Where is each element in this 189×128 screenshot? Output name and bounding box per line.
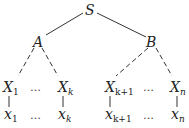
ellipsis-right-upper: … <box>143 81 154 94</box>
leaf-xn: xn <box>171 106 185 124</box>
node-x1-upper: X1 <box>2 79 19 97</box>
node-a: A <box>31 34 43 50</box>
edge-b-xk1 <box>116 48 148 76</box>
edge-a-x1 <box>18 48 34 76</box>
node-xk-upper: Xk <box>57 79 73 97</box>
leaf-xk1: xk+1 <box>105 106 132 124</box>
tree-diagram: S A B X1 … Xk Xk+1 … Xn x1 … xk xk+1 … x… <box>0 0 189 128</box>
node-xk1-upper: Xk+1 <box>104 79 134 97</box>
leaf-x1: x1 <box>4 106 18 124</box>
node-b: B <box>145 34 156 50</box>
ellipsis-right-lower: … <box>143 109 154 122</box>
leaf-xk: xk <box>58 106 71 124</box>
ellipsis-left-lower: … <box>30 109 41 122</box>
node-s: S <box>85 2 95 18</box>
edge-b-xn <box>156 48 172 76</box>
ellipsis-left-upper: … <box>30 81 41 94</box>
edge-a-xk <box>42 48 58 76</box>
node-xn-upper: Xn <box>169 79 186 97</box>
edge-s-b <box>97 13 146 37</box>
edge-s-a <box>46 13 83 35</box>
